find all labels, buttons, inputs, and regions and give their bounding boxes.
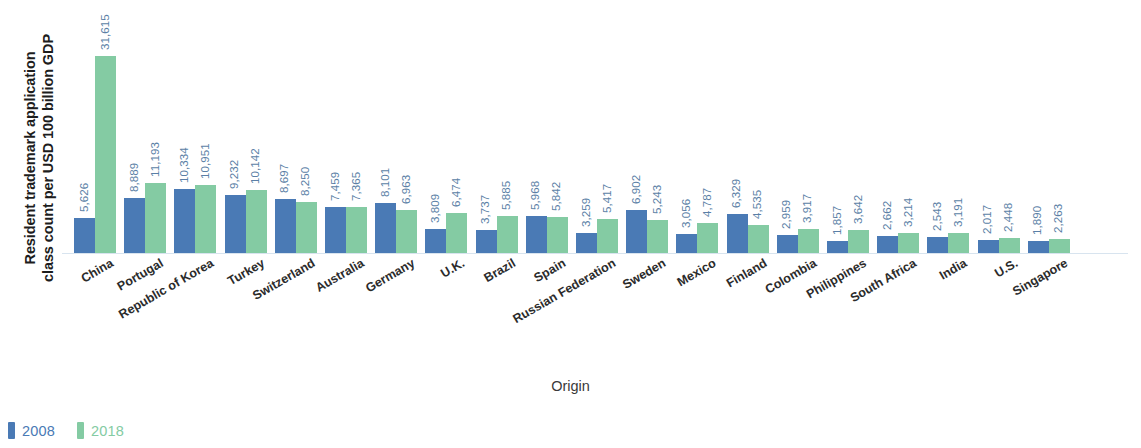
bar-pair: 9,23210,142: [225, 190, 267, 253]
bar-value-label: 3,642: [852, 195, 864, 224]
bar-rect: [246, 190, 267, 253]
category-axis-labels: ChinaPortugalRepublic of KoreaTurkeySwit…: [62, 256, 1132, 366]
bar-rect: [798, 229, 819, 253]
legend-item-2018[interactable]: 2018: [77, 422, 124, 439]
bar-value-label: 8,101: [379, 167, 391, 196]
bar-2018[interactable]: 10,951: [195, 185, 216, 253]
bar-rect: [145, 183, 166, 253]
bar-2008[interactable]: 6,902: [626, 210, 647, 253]
bar-value-label: 5,842: [550, 181, 562, 210]
bar-2008[interactable]: 8,697: [275, 199, 296, 253]
y-axis-title-line1: Resident trademark application: [21, 52, 39, 265]
category-label-china: China: [79, 256, 116, 285]
bar-2008[interactable]: 1,857: [827, 241, 848, 253]
bar-group: 8,1016,963: [375, 0, 417, 253]
bar-2008[interactable]: 1,890: [1028, 241, 1049, 253]
bar-2008[interactable]: 8,889: [124, 198, 145, 253]
bar-rect: [225, 195, 246, 253]
bar-2018[interactable]: 5,885: [497, 216, 518, 253]
bar-group: 2,6623,214: [877, 0, 919, 253]
bar-rect: [1028, 241, 1049, 253]
bar-2018[interactable]: 7,365: [346, 207, 367, 253]
bar-2018[interactable]: 10,142: [246, 190, 267, 253]
bar-2018[interactable]: 11,193: [145, 183, 166, 253]
bar-2008[interactable]: 3,809: [425, 229, 446, 253]
bar-2018[interactable]: 5,243: [647, 220, 668, 253]
bar-group: 1,8573,642: [827, 0, 869, 253]
bar-2018[interactable]: 4,535: [748, 225, 769, 253]
bar-2008[interactable]: 8,101: [375, 203, 396, 253]
category-label-republic-of-korea: Republic of Korea: [117, 256, 217, 322]
y-axis-title-line2: class count per USD 100 billion GDP: [39, 34, 57, 282]
category-label-brazil: Brazil: [481, 256, 517, 285]
bar-2008[interactable]: 7,459: [325, 207, 346, 253]
bar-rect: [325, 207, 346, 253]
bar-value-label: 3,191: [952, 198, 964, 227]
bar-rect: [576, 233, 597, 253]
bar-2008[interactable]: 6,329: [727, 214, 748, 253]
bar-2018[interactable]: 6,963: [396, 210, 417, 253]
bar-group: 2,0172,448: [978, 0, 1020, 253]
bar-rect: [748, 225, 769, 253]
bar-value-label: 8,697: [278, 164, 290, 193]
bar-group: 1,8902,263: [1028, 0, 1070, 253]
legend-swatch-2008: [8, 422, 15, 439]
bar-value-label: 3,917: [801, 193, 813, 222]
bar-2018[interactable]: 3,642: [848, 230, 869, 253]
category-label-india: India: [937, 256, 969, 283]
bar-value-label: 5,417: [601, 184, 613, 213]
bar-2018[interactable]: 2,448: [999, 238, 1020, 253]
bar-group: 8,88911,193: [124, 0, 166, 253]
bar-pair: 2,5433,191: [927, 233, 969, 253]
bar-2008[interactable]: 2,662: [877, 236, 898, 253]
bar-group: 10,33410,951: [174, 0, 216, 253]
bar-value-label: 2,543: [931, 202, 943, 231]
x-axis-title: Origin: [0, 378, 1141, 394]
bar-value-label: 1,890: [1031, 206, 1043, 235]
bar-2018[interactable]: 4,787: [697, 223, 718, 253]
bar-value-label: 31,615: [99, 14, 111, 50]
bar-2018[interactable]: 8,250: [296, 202, 317, 253]
bar-value-label: 5,968: [529, 181, 541, 210]
bar-2008[interactable]: 2,959: [777, 235, 798, 253]
bar-2018[interactable]: 31,615: [95, 56, 116, 253]
bar-value-label: 2,017: [981, 205, 993, 234]
bar-value-label: 3,737: [479, 194, 491, 223]
bar-rect: [877, 236, 898, 253]
bar-rect: [727, 214, 748, 253]
bar-2008[interactable]: 3,056: [676, 234, 697, 253]
bar-value-label: 8,250: [299, 166, 311, 195]
bar-pair: 2,6623,214: [877, 233, 919, 253]
bar-value-label: 4,535: [751, 189, 763, 218]
bar-2008[interactable]: 2,017: [978, 240, 999, 253]
bar-2018[interactable]: 3,191: [948, 233, 969, 253]
bar-rect: [74, 218, 95, 253]
bar-value-label: 10,334: [178, 147, 190, 183]
bar-group: 7,4597,365: [325, 0, 367, 253]
bar-pair: 10,33410,951: [174, 185, 216, 253]
bar-2018[interactable]: 5,417: [597, 219, 618, 253]
bar-2008[interactable]: 3,737: [476, 230, 497, 253]
bar-rect: [547, 217, 568, 253]
bar-2008[interactable]: 10,334: [174, 189, 195, 253]
bar-2018[interactable]: 6,474: [446, 213, 467, 253]
bar-2008[interactable]: 5,626: [74, 218, 95, 253]
bar-group: 8,6978,250: [275, 0, 317, 253]
bar-2008[interactable]: 5,968: [526, 216, 547, 253]
bar-2008[interactable]: 2,543: [927, 237, 948, 253]
category-label-singapore: Singapore: [1010, 256, 1070, 299]
bar-value-label: 6,329: [730, 178, 742, 207]
y-axis-title: Resident trademark application class cou…: [16, 13, 62, 303]
bar-2018[interactable]: 3,917: [798, 229, 819, 253]
bar-pair: 7,4597,365: [325, 207, 367, 253]
bar-2008[interactable]: 3,259: [576, 233, 597, 253]
legend-item-2008[interactable]: 2008: [8, 422, 55, 439]
bar-value-label: 3,259: [580, 197, 592, 226]
bar-2018[interactable]: 5,842: [547, 217, 568, 253]
bar-2018[interactable]: 3,214: [898, 233, 919, 253]
bar-rect: [626, 210, 647, 253]
bar-2008[interactable]: 9,232: [225, 195, 246, 253]
bar-pair: 3,2595,417: [576, 219, 618, 253]
bar-2018[interactable]: 2,263: [1049, 239, 1070, 253]
bar-group: 9,23210,142: [225, 0, 267, 253]
